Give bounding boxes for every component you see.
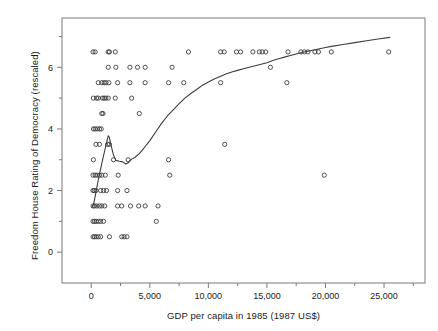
y-axis-title: Freedom House Rating of Democracy (resca… bbox=[29, 26, 40, 286]
y-tick-label: 2 bbox=[48, 186, 53, 196]
plot-frame bbox=[62, 18, 425, 283]
x-axis-ticks bbox=[91, 283, 413, 288]
x-tick-label: 5,000 bbox=[139, 291, 162, 301]
x-tick-label: 20,000 bbox=[312, 291, 340, 301]
x-axis-tick-labels: 05,00010,00015,00020,00025,000 bbox=[89, 291, 398, 301]
x-tick-label: 25,000 bbox=[370, 291, 398, 301]
y-tick-label: 6 bbox=[48, 63, 53, 73]
x-tick-label: 10,000 bbox=[195, 291, 223, 301]
x-axis-title: GDP per capita in 1985 (1987 US$) bbox=[62, 310, 425, 321]
plot-frame-rect bbox=[62, 18, 425, 283]
y-tick-label: 4 bbox=[48, 124, 53, 134]
x-tick-label: 15,000 bbox=[253, 291, 281, 301]
chart-figure: 05,00010,00015,00020,00025,000 0246 Free… bbox=[0, 0, 438, 331]
y-axis-tick-labels: 0246 bbox=[48, 63, 53, 258]
x-tick-label: 0 bbox=[89, 291, 94, 301]
y-tick-label: 0 bbox=[48, 247, 53, 257]
y-axis-ticks bbox=[57, 36, 62, 252]
scatter-plot-canvas: 05,00010,00015,00020,00025,000 0246 bbox=[0, 0, 438, 331]
